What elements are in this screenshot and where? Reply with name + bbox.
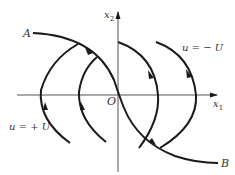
right-region-label: u = − U (182, 42, 224, 53)
x2-axis-label: x2 (104, 9, 114, 23)
origin-label: O (107, 95, 116, 108)
point-a-label: A (22, 27, 31, 40)
left-region-label: u = + U (9, 121, 51, 132)
point-b-label: B (220, 157, 229, 170)
x1-axis-label: x1 (213, 98, 223, 112)
phase-plane-diagram: A B O x2 x1 u = − U u = + U (0, 0, 235, 175)
direction-arrow-icon (43, 102, 48, 110)
left-inner-arc (79, 57, 106, 142)
